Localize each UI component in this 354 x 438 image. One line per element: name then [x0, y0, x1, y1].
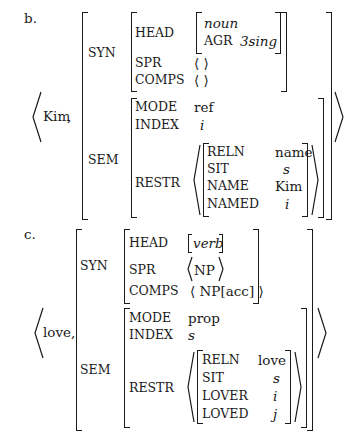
feature-comps: COMPS — [135, 72, 185, 88]
spr-right-angle-icon — [218, 257, 224, 281]
feature-sit: SIT — [202, 370, 224, 386]
feature-sit: SIT — [207, 161, 229, 177]
spr-value: NP — [194, 262, 215, 278]
reln-value: name — [275, 144, 313, 160]
avm-left-bracket — [82, 12, 88, 220]
feature-index: INDEX — [135, 117, 179, 133]
sem-left-bracket — [124, 308, 130, 428]
avm-right-bracket — [307, 229, 313, 431]
named-value: i — [285, 196, 289, 212]
avm-right-bracket — [326, 12, 332, 220]
loved-value: j — [273, 406, 277, 422]
restr-left-angle-icon — [193, 145, 201, 215]
comps-value: ⟨ ⟩ — [194, 72, 209, 88]
head-type: noun — [204, 15, 238, 31]
feature-index: INDEX — [129, 327, 173, 343]
feature-agr: AGR — [204, 33, 232, 49]
comps-value: ⟨ NP[acc] ⟩ — [190, 283, 264, 299]
sit-value: s — [283, 161, 290, 177]
feature-syn: SYN — [88, 45, 116, 61]
example-label: b. — [24, 10, 37, 26]
agr-value: 3sing — [240, 33, 277, 49]
mode-value: ref — [194, 99, 213, 115]
feature-restr: RESTR — [129, 380, 174, 396]
feature-reln: RELN — [207, 144, 245, 160]
feature-comps: COMPS — [129, 283, 179, 299]
index-value: s — [188, 327, 195, 343]
feature-syn: SYN — [80, 258, 108, 274]
feature-mode: MODE — [135, 99, 177, 115]
restr-left-angle-icon — [187, 352, 195, 422]
sit-value: s — [273, 370, 280, 386]
lover-value: i — [273, 388, 277, 404]
word: love, — [43, 324, 75, 340]
right-angle-bracket-icon — [334, 92, 344, 142]
separator: , — [67, 108, 71, 124]
index-value: i — [200, 117, 204, 133]
feature-head: HEAD — [129, 235, 168, 251]
feature-lover: LOVER — [202, 388, 248, 404]
spr-left-angle-icon — [187, 257, 193, 281]
reln-value: love — [258, 352, 286, 368]
head-right-bracket — [219, 234, 223, 253]
left-angle-bracket-icon — [32, 92, 42, 142]
feature-reln: RELN — [202, 352, 240, 368]
feature-sem: SEM — [88, 152, 119, 168]
mode-value: prop — [188, 310, 220, 326]
restr-right-angle-icon — [294, 352, 302, 422]
syn-right-bracket — [281, 12, 287, 92]
sem-left-bracket — [131, 98, 137, 218]
name-value: Kim — [275, 178, 302, 194]
right-angle-bracket-icon — [317, 308, 327, 358]
feature-spr: SPR — [129, 262, 155, 278]
feature-named: NAMED — [207, 196, 259, 212]
example-label: c. — [24, 226, 36, 242]
spr-value: ⟨ ⟩ — [194, 55, 209, 71]
feature-mode: MODE — [129, 310, 171, 326]
feature-loved: LOVED — [202, 406, 249, 422]
feature-restr: RESTR — [135, 175, 180, 191]
feature-head: HEAD — [135, 25, 174, 41]
feature-spr: SPR — [135, 55, 161, 71]
feature-name: NAME — [207, 178, 249, 194]
head-left-bracket — [196, 12, 202, 54]
feature-sem: SEM — [80, 362, 111, 378]
head-left-bracket — [188, 234, 192, 253]
